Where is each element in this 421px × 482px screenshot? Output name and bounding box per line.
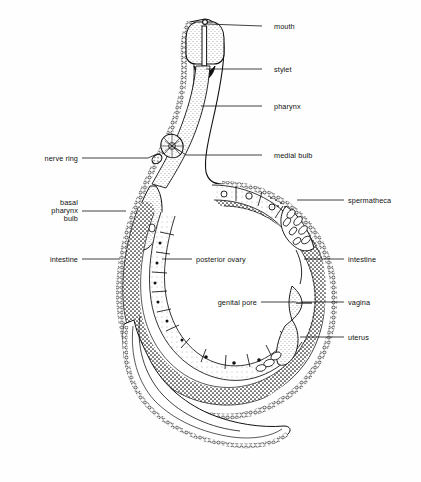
label-medial-bulb: medial bulb — [274, 151, 312, 160]
label-posterior-ovary: posterior ovary — [196, 255, 246, 264]
label-vagina: vagina — [348, 298, 371, 307]
mouth-opening — [203, 20, 208, 25]
label-mouth: mouth — [274, 22, 295, 31]
label-basal-line-3: bulb — [64, 214, 78, 223]
label-intestine-left: intestine — [50, 255, 78, 264]
nematode-diagram-svg: mouth stylet pharynx medial bulb spermat… — [0, 0, 421, 482]
medial-bulb-striations — [161, 135, 183, 157]
label-spermatheca: spermatheca — [348, 196, 392, 205]
label-pharynx: pharynx — [274, 102, 301, 111]
nematode-anatomy-figure: mouth stylet pharynx medial bulb spermat… — [0, 0, 421, 482]
stylet-shaft — [202, 26, 207, 66]
label-genital-pore: genital pore — [218, 298, 257, 307]
label-intestine-right: intestine — [348, 255, 376, 264]
leader-nerve-ring — [82, 154, 157, 158]
label-nerve-ring: nerve ring — [45, 154, 78, 163]
label-uterus: uterus — [348, 333, 369, 342]
label-stylet: stylet — [274, 65, 292, 74]
